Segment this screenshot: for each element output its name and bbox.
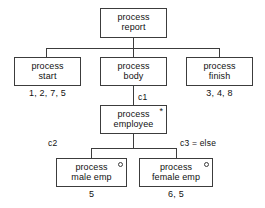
asterisk-icon: * [159,107,163,116]
node-process-finish-line2: finish [209,72,231,82]
edge-report-to-bus [133,38,134,48]
caption-process-finish: 3, 4, 8 [186,88,253,98]
node-process-male-emp-line2: male emp [71,173,111,183]
node-process-employee[interactable]: * process employee [100,105,167,134]
edge-label-c3: c3 = else [180,138,216,148]
node-process-employee-line2: employee [114,120,154,130]
edge-bus-to-body [133,48,134,57]
node-process-body-line2: body [124,72,144,82]
node-process-report-line2: report [121,23,145,33]
node-process-start-line2: start [38,72,56,82]
node-process-female-emp-line2: female emp [152,173,200,183]
node-process-finish[interactable]: process finish [186,57,253,86]
edge-body-to-employee [133,86,134,105]
edge-bus-to-start [46,48,47,57]
edge-level4-bus [91,148,177,149]
node-process-male-emp[interactable]: process male emp [56,158,127,187]
caption-process-male-emp: 5 [56,189,127,199]
node-process-start[interactable]: process start [14,57,81,86]
circle-icon [118,162,123,167]
edge-employee-to-bus [133,134,134,148]
structure-chart-diagram: process report process start 1, 2, 7, 5 … [0,0,265,208]
node-process-report[interactable]: process report [100,8,167,38]
node-process-female-emp[interactable]: process female emp [139,158,213,187]
edge-label-c1: c1 [138,92,147,102]
node-process-body[interactable]: process body [100,57,167,86]
caption-process-female-emp: 6, 5 [139,189,213,199]
edge-label-c2: c2 [48,138,57,148]
edge-bus-to-male [91,148,92,158]
caption-process-start: 1, 2, 7, 5 [14,88,81,98]
circle-icon [204,162,209,167]
edge-bus-to-finish [219,48,220,57]
edge-bus-to-female [176,148,177,158]
